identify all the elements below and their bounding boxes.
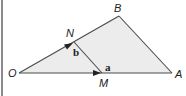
vector-label-a: a <box>105 61 111 73</box>
point-label-n: N <box>66 27 74 39</box>
triangle-diagram: O A B N M b a <box>0 0 186 96</box>
point-label-b: B <box>114 2 121 14</box>
point-label-o: O <box>8 67 17 79</box>
point-label-a: A <box>174 68 182 80</box>
triangle-oab-fill <box>19 16 172 73</box>
point-label-m: M <box>99 77 109 89</box>
vector-label-b: b <box>73 46 79 58</box>
